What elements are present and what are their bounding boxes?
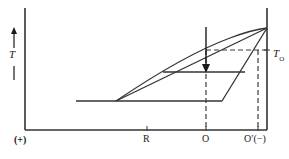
x-tick-label-o: O (202, 134, 209, 144)
t-zero-subscript: O (279, 55, 284, 63)
x-tick-label-oprime: O′(−) (244, 134, 266, 144)
diagram-canvas: T (+) R O O′(−) TO (0, 0, 289, 159)
y-axis-label: T (9, 49, 15, 60)
x-tick-label-r: R (143, 134, 150, 144)
y-label-t-zero: TO (273, 44, 284, 63)
up-arrow-icon (11, 27, 17, 34)
x-axis-positive-sign-label: (+) (14, 135, 26, 145)
